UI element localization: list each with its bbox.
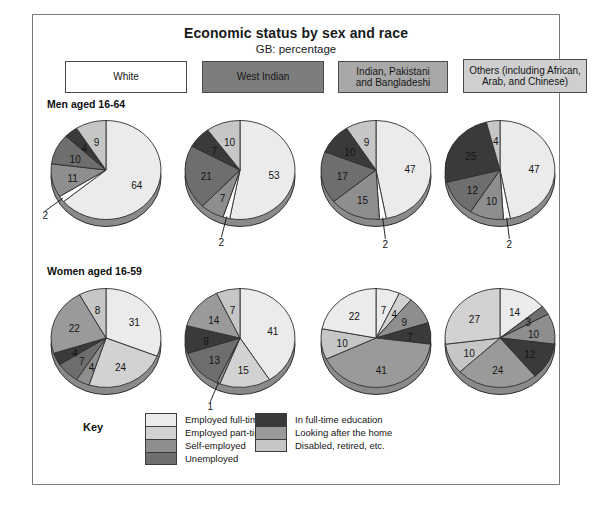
legend-swatch-icon (255, 413, 287, 426)
pie-slice-value-label: 4 (81, 143, 87, 154)
pie-slice-value-label: 27 (469, 314, 481, 325)
pie-slice-value-label: 7 (220, 193, 226, 204)
group-header-others: Others (including African, Arab, and Chi… (463, 59, 587, 93)
legend-swatch-icon (255, 439, 287, 452)
legend-label: Looking after the home (295, 427, 392, 438)
pie-slice-value-label: 53 (268, 170, 280, 181)
pie-slice-value-label: 14 (208, 315, 220, 326)
pie-slice-value-label: 7 (230, 305, 236, 316)
legend-column-left: Employed full-timeEmployed part-timeSelf… (145, 413, 267, 465)
pie-slice-value-label: 12 (524, 349, 536, 360)
pie-slice-value-label: 7 (381, 305, 387, 316)
group-label-line1: Others (including African, (469, 65, 581, 76)
pie-slice-value-label: 9 (401, 317, 407, 328)
legend-swatch-icon (145, 426, 177, 439)
group-label-line2: and Bangladeshi (356, 77, 431, 88)
pie-slice-value-label: 64 (131, 180, 143, 191)
group-header-west-indian: West Indian (202, 61, 324, 93)
legend-item: In full-time education (255, 413, 392, 426)
pie-slice-value-label: 25 (465, 151, 477, 162)
pie-slice-value-label: 22 (69, 323, 81, 334)
pie-slice-value-label: 24 (115, 362, 127, 373)
legend-item: Looking after the home (255, 426, 392, 439)
chart-subtitle: GB: percentage (33, 43, 559, 55)
legend-title: Key (83, 421, 103, 433)
chart-title: Economic status by sex and race (33, 25, 559, 41)
pie-slice-value-label: 2 (507, 239, 513, 250)
legend-item: Disabled, retired, etc. (255, 439, 392, 452)
pie-slice-value-label: 10 (344, 147, 356, 158)
pie-svg: 1431012241027 (437, 273, 593, 423)
pie-slice-value-label: 13 (209, 355, 221, 366)
pie-slice-value-label: 15 (357, 195, 369, 206)
pie-slice-value-label: 24 (492, 365, 504, 376)
group-label-line1: West Indian (237, 71, 290, 82)
pie-slice-value-label: 4 (89, 362, 95, 373)
group-header-indian-pakistani-bangladeshi: Indian, Pakistani and Bangladeshi (338, 61, 448, 93)
legend-label: Self-employed (185, 440, 246, 451)
pie-slice-value-label: 47 (404, 164, 416, 175)
chart-figure: Economic status by sex and race GB: perc… (32, 14, 560, 485)
pie-slice-value-label: 3 (525, 317, 531, 328)
legend-swatch-icon (255, 426, 287, 439)
group-label-line1: Indian, Pakistani (356, 66, 429, 77)
pie-chart-men-others: 4721012254 (437, 105, 593, 255)
pie-slice-value-label: 7 (212, 146, 218, 157)
legend-item: Employed part-time (145, 426, 267, 439)
legend-column-right: In full-time educationLooking after the … (255, 413, 392, 452)
legend-swatch-icon (145, 452, 177, 465)
pie-slice-value-label: 31 (129, 317, 141, 328)
pie-svg: 4721012254 (437, 105, 593, 255)
legend-label: Employed full-time (185, 414, 263, 425)
pie-slice-value-label: 47 (528, 164, 540, 175)
legend-label: In full-time education (295, 414, 383, 425)
pie-slice-value-label: 22 (349, 311, 361, 322)
pie-slice-value-label: 10 (224, 137, 236, 148)
pie-slice-value-label: 15 (238, 365, 250, 376)
pie-slice-value-label: 9 (364, 137, 370, 148)
pie-slice-value-label: 4 (391, 309, 397, 320)
legend-item: Employed full-time (145, 413, 267, 426)
pie-slice-value-label: 2 (383, 239, 389, 250)
pie-slice-value-label: 9 (203, 336, 209, 347)
pie-slice-value-label: 41 (267, 326, 279, 337)
pie-slice-value-label: 7 (79, 356, 85, 367)
pie-slice-value-label: 2 (219, 237, 225, 248)
pie-slice-value-label: 12 (467, 185, 479, 196)
pie-slice-value-label: 10 (528, 329, 540, 340)
pie-slice-value-label: 17 (337, 171, 349, 182)
legend-item: Self-employed (145, 439, 267, 452)
pie-slice-value-label: 4 (493, 136, 499, 147)
group-header-white: White (65, 61, 187, 93)
legend-swatch-icon (145, 413, 177, 426)
pie-slice-value-label: 11 (68, 173, 79, 184)
pie-slice-value-label: 10 (486, 196, 498, 207)
pie-slice-value-label: 21 (201, 171, 213, 182)
group-label-line2: Arab, and Chinese) (482, 76, 568, 87)
pie-slice-value-label: 1 (207, 401, 213, 412)
pie-slice-value-label: 10 (70, 154, 82, 165)
pie-slice-value-label: 8 (95, 305, 101, 316)
pie-slice-value-label: 4 (72, 348, 78, 359)
group-label-line1: White (113, 71, 139, 82)
legend-item: Unemployed (145, 452, 267, 465)
pie-slice-value-label: 2 (43, 210, 49, 221)
legend-key: Key Employed full-timeEmployed part-time… (65, 413, 535, 473)
pie-slice-value-label: 10 (337, 338, 349, 349)
pie-slice-value-label: 41 (376, 365, 388, 376)
legend-label: Unemployed (185, 453, 238, 464)
pie-slice-value-label: 14 (509, 307, 521, 318)
legend-label: Disabled, retired, etc. (295, 440, 385, 451)
pie-slice-value-label: 7 (407, 332, 413, 343)
legend-swatch-icon (145, 439, 177, 452)
pie-chart-women-others: 1431012241027 (437, 273, 593, 423)
pie-slice-value-label: 9 (94, 137, 100, 148)
pie-slice-value-label: 10 (464, 348, 476, 359)
